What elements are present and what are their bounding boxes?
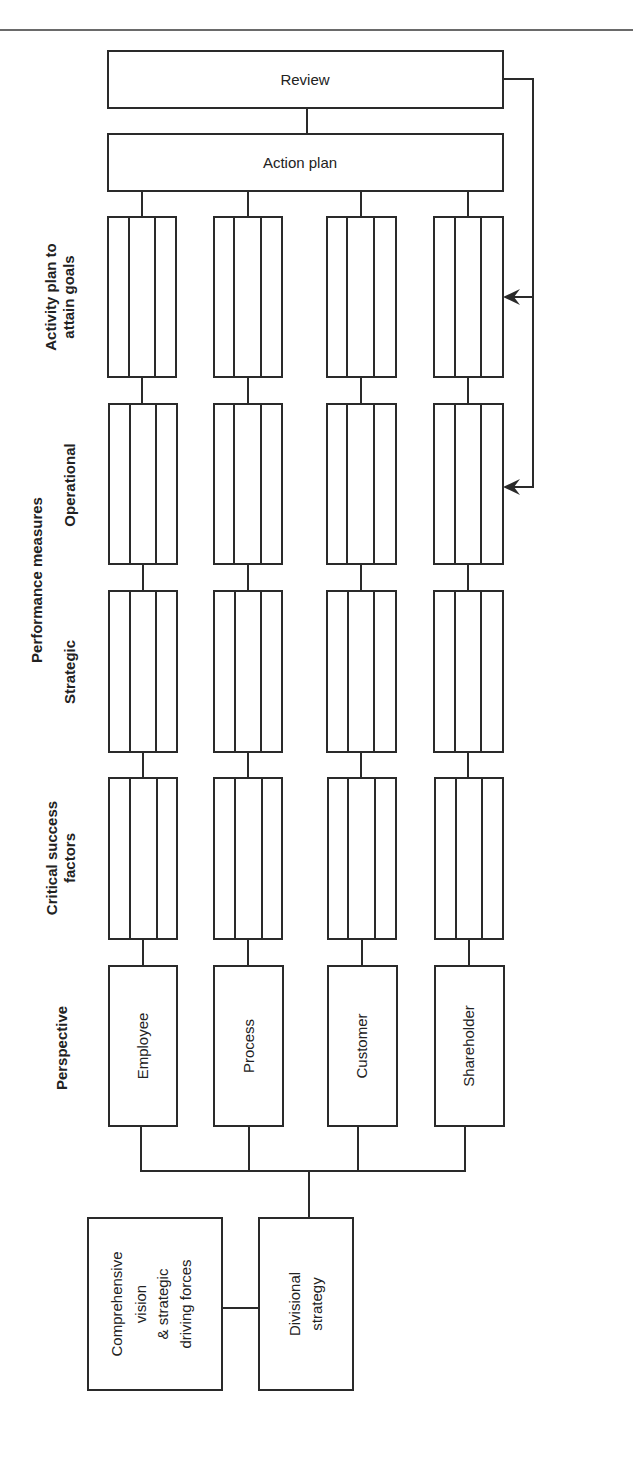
action-plan-connectors (142, 191, 468, 217)
performance-measures-label: Performance measures (28, 497, 45, 663)
perspective-customer-label: Customer (353, 1013, 370, 1078)
action-plan-box: Action plan (108, 134, 503, 191)
activity-shareholder-box (434, 217, 503, 377)
operational-shareholder-box (434, 404, 503, 564)
perspective-process-box: Process (214, 966, 283, 1126)
activity-customer-box (327, 217, 396, 377)
perspective-label: Perspective (53, 1006, 70, 1090)
row-critical-success-factors (109, 778, 503, 939)
perspective-employee-label: Employee (134, 1013, 151, 1080)
review-label: Review (280, 71, 329, 88)
perspective-shareholder-label: Shareholder (460, 1005, 477, 1087)
strategic-csf-connectors (143, 752, 468, 778)
perspective-bus (140, 1126, 466, 1218)
activity-plan-label-line-2: attain goals (60, 255, 77, 338)
comprehensive-vision-box: Comprehensive vision & strategic driving… (88, 1218, 222, 1390)
activity-operational-connectors (142, 377, 468, 404)
operational-label: Operational (61, 443, 78, 526)
operational-process-box (214, 404, 282, 564)
csf-label-line-2: factors (61, 833, 78, 883)
divisional-line-1: Divisional (286, 1272, 303, 1336)
row-perspective: Employee Process Customer Shareholder (109, 966, 504, 1126)
perspective-process-label: Process (240, 1019, 257, 1073)
strategic-label: Strategic (61, 640, 78, 704)
operational-customer-box (327, 404, 396, 564)
strategic-process-box (214, 591, 282, 752)
divisional-strategy-box: Divisional strategy (259, 1218, 353, 1390)
strategic-customer-box (327, 591, 396, 752)
action-plan-label: Action plan (263, 154, 337, 171)
activity-plan-label-line-1: Activity plan to (42, 243, 59, 351)
csf-label-line-1: Critical success (43, 801, 60, 915)
comprehensive-line-2: vision (132, 1285, 149, 1323)
perspective-customer-box: Customer (328, 966, 397, 1126)
comprehensive-line-1: Comprehensive (108, 1251, 125, 1356)
comprehensive-line-3: & strategic (154, 1268, 171, 1339)
csf-employee-box (109, 778, 177, 939)
row-activity-plan (108, 217, 503, 377)
csf-shareholder-box (435, 778, 503, 939)
operational-strategic-connectors (143, 564, 468, 591)
activity-employee-box (108, 217, 176, 377)
csf-customer-box (328, 778, 396, 939)
strategic-employee-box (109, 591, 177, 752)
operational-employee-box (109, 404, 177, 564)
comprehensive-line-4: driving forces (177, 1259, 194, 1348)
perspective-shareholder-box: Shareholder (435, 966, 504, 1126)
row-labels: Activity plan to attain goals Performanc… (28, 243, 78, 1090)
csf-perspective-connectors (143, 939, 469, 966)
row-operational (109, 404, 503, 564)
perspective-employee-box: Employee (109, 966, 177, 1126)
review-box: Review (108, 51, 503, 108)
csf-process-box (214, 778, 282, 939)
row-strategic (109, 591, 503, 752)
activity-process-box (214, 217, 282, 377)
balanced-scorecard-diagram: Review Action plan (0, 0, 633, 1460)
divisional-line-2: strategy (308, 1277, 325, 1331)
feedback-loop (503, 79, 533, 495)
strategic-shareholder-box (434, 591, 503, 752)
